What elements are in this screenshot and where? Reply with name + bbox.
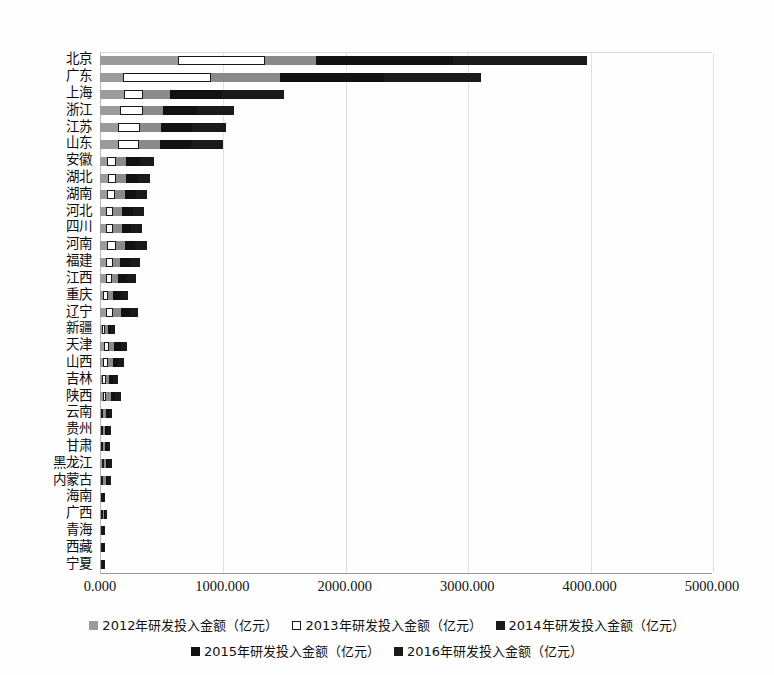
- category-label: 福建: [66, 254, 92, 268]
- table-row: [100, 358, 124, 367]
- bar-segment: [106, 224, 113, 233]
- bar-segment: [116, 174, 126, 183]
- table-row: [100, 392, 121, 401]
- bar-segment: [108, 174, 117, 183]
- category-label: 西藏: [66, 540, 92, 554]
- bar-segment: [140, 123, 161, 132]
- bar-segment: [121, 308, 130, 317]
- bar-segment: [113, 375, 117, 384]
- legend-label: 2012年研发投入金额（亿元）: [102, 613, 278, 639]
- bar-segment: [126, 174, 138, 183]
- bar-segment: [127, 274, 136, 283]
- legend-item[interactable]: 2012年研发投入金额（亿元）: [89, 613, 278, 639]
- bar-series-container: [100, 52, 712, 573]
- legend-item[interactable]: 2013年研发投入金额（亿元）: [292, 613, 481, 639]
- category-label: 新疆: [66, 321, 92, 335]
- bar-segment: [100, 157, 107, 166]
- x-axis-ticklabels: 0.0001000.0002000.0003000.0004000.000500…: [0, 578, 774, 602]
- bar-segment: [113, 308, 121, 317]
- category-label: 广东: [66, 69, 92, 83]
- bar-segment: [107, 190, 116, 199]
- bar-segment: [109, 459, 112, 468]
- table-row: [100, 56, 587, 65]
- bar-segment: [118, 274, 126, 283]
- category-label: 湖南: [66, 187, 92, 201]
- table-row: [100, 241, 147, 250]
- table-row: [100, 476, 111, 485]
- legend-swatch-2014-icon: [496, 621, 505, 630]
- bar-segment: [100, 241, 107, 250]
- legend-item[interactable]: 2016年研发投入金额（亿元）: [394, 639, 583, 665]
- legend-row: 2012年研发投入金额（亿元）2013年研发投入金额（亿元）2014年研发投入金…: [0, 612, 774, 639]
- table-row: [100, 560, 105, 569]
- bar-segment: [100, 90, 124, 99]
- category-label: 云南: [66, 405, 92, 419]
- category-label: 吉林: [66, 372, 92, 386]
- category-label: 内蒙古: [53, 473, 92, 487]
- bar-segment: [178, 56, 264, 65]
- legend-row: 2015年研发投入金额（亿元）2016年研发投入金额（亿元）: [0, 639, 774, 666]
- table-row: [100, 140, 223, 149]
- table-row: [100, 90, 284, 99]
- bar-segment: [135, 241, 146, 250]
- legend-swatch-2013-icon: [292, 621, 301, 630]
- category-label: 安徽: [66, 153, 92, 167]
- bar-segment: [115, 190, 124, 199]
- x-tick-label: 0.000: [84, 578, 117, 595]
- category-label: 海南: [66, 489, 92, 503]
- bar-segment: [136, 190, 148, 199]
- table-row: [100, 291, 128, 300]
- category-label: 黑龙江: [53, 456, 92, 470]
- table-row: [100, 442, 110, 451]
- table-row: [100, 207, 144, 216]
- bar-segment: [140, 157, 155, 166]
- bar-segment: [123, 73, 211, 82]
- category-label: 甘肃: [66, 439, 92, 453]
- x-tick-label: 4000.000: [562, 578, 616, 595]
- table-row: [100, 106, 234, 115]
- category-label: 河南: [66, 237, 92, 251]
- table-row: [100, 190, 147, 199]
- category-label: 四川: [66, 220, 92, 234]
- bar-segment: [265, 56, 316, 65]
- category-label: 江西: [66, 271, 92, 285]
- bar-segment: [126, 157, 139, 166]
- legend-item[interactable]: 2015年研发投入金额（亿元）: [191, 639, 380, 665]
- x-tick-label: 5000.000: [685, 578, 739, 595]
- bar-segment: [191, 140, 223, 149]
- bar-segment: [125, 190, 136, 199]
- category-label: 青海: [66, 523, 92, 537]
- table-row: [100, 258, 140, 267]
- bar-segment: [108, 426, 111, 435]
- x-tick-label: 1000.000: [195, 578, 249, 595]
- bar-segment: [161, 123, 193, 132]
- bar-segment: [105, 510, 106, 519]
- table-row: [100, 342, 127, 351]
- category-label: 浙江: [66, 103, 92, 117]
- bar-segment: [100, 73, 123, 82]
- bar-segment: [108, 442, 110, 451]
- bar-segment: [115, 392, 120, 401]
- legend-item[interactable]: 2014年研发投入金额（亿元）: [496, 613, 685, 639]
- category-label: 宁夏: [66, 557, 92, 571]
- category-label: 天津: [66, 338, 92, 352]
- category-label: 山东: [66, 136, 92, 150]
- table-row: [100, 426, 111, 435]
- bar-segment: [160, 140, 191, 149]
- table-row: [100, 157, 154, 166]
- chart-page: 北京广东上海浙江江苏山东安徽湖北湖南河北四川河南福建江西重庆辽宁新疆天津山西吉林…: [0, 0, 774, 675]
- bar-segment: [211, 73, 280, 82]
- bar-segment: [453, 56, 586, 65]
- bar-segment: [118, 123, 139, 132]
- legend-swatch-2015-icon: [191, 647, 200, 656]
- bar-segment: [197, 106, 234, 115]
- category-label: 湖北: [66, 170, 92, 184]
- table-row: [100, 274, 136, 283]
- bar-segment: [113, 291, 120, 300]
- bar-segment: [113, 258, 121, 267]
- bar-segment: [100, 106, 120, 115]
- bar-segment: [120, 106, 143, 115]
- table-row: [100, 174, 150, 183]
- bar-segment: [106, 258, 113, 267]
- bar-segment: [118, 140, 139, 149]
